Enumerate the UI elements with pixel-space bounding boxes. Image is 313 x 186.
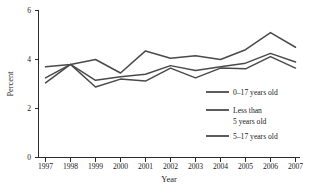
y-tick-label-0: 0 [27, 153, 31, 162]
y-axis-ticks [35, 11, 39, 158]
y-axis-title: Percent [6, 71, 15, 97]
legend-label-5-17-years-old: 5–17 years old [233, 132, 278, 141]
series-group [46, 33, 296, 87]
x-tick-label-1998: 1998 [63, 162, 78, 171]
line-chart: 6 4 2 0 Percent 1997 1998 1999 2000 2001… [0, 0, 313, 186]
x-tick-label-2000: 2000 [113, 162, 128, 171]
x-tick-label-2006: 2006 [263, 162, 278, 171]
y-tick-label-6: 6 [27, 6, 31, 15]
y-tick-label-2: 2 [27, 104, 31, 113]
x-tick-label-2001: 2001 [138, 162, 153, 171]
legend-label-5-years-old: 5 years old [233, 117, 267, 126]
x-tick-label-1999: 1999 [88, 162, 103, 171]
series-line-0-17-years-old [46, 33, 296, 73]
x-tick-label-2004: 2004 [213, 162, 228, 171]
x-tick-label-1997: 1997 [38, 162, 53, 171]
legend-label-0-17-years-old: 0–17 years old [233, 88, 278, 97]
x-axis-title: Year [161, 175, 177, 184]
x-axis-ticks [46, 158, 296, 162]
x-tick-label-2005: 2005 [238, 162, 253, 171]
x-tick-label-2002: 2002 [163, 162, 178, 171]
x-tick-label-2007: 2007 [288, 162, 303, 171]
chart-container: 6 4 2 0 Percent 1997 1998 1999 2000 2001… [0, 0, 313, 186]
y-tick-label-4: 4 [27, 55, 31, 64]
legend: 0–17 years old Less than 5 years old 5–1… [206, 88, 278, 141]
x-tick-label-2003: 2003 [188, 162, 203, 171]
legend-label-less-than: Less than [233, 106, 262, 115]
